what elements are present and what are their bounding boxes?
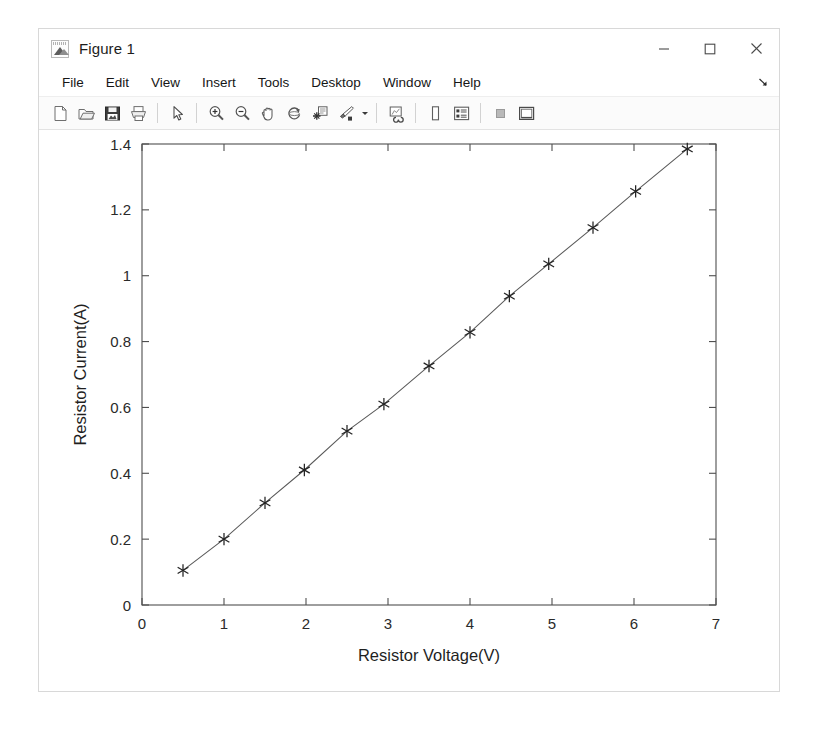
x-axis-title: Resistor Voltage(V)	[358, 646, 500, 664]
series-line	[183, 149, 687, 570]
y-tick-label: 1.4	[110, 136, 131, 153]
rotate-3d-icon[interactable]	[281, 100, 307, 126]
separator-3	[376, 103, 377, 123]
window-titlebar: Figure 1	[39, 29, 779, 68]
window-controls	[641, 29, 779, 68]
link-plot-icon[interactable]	[383, 100, 409, 126]
open-file-icon[interactable]	[73, 100, 99, 126]
separator-1	[157, 103, 158, 123]
data-point-marker	[379, 398, 390, 410]
data-point-marker	[219, 533, 230, 545]
separator-5	[480, 103, 481, 123]
x-tick-label: 5	[548, 615, 556, 632]
menubar: File Edit View Insert Tools Desktop Wind…	[39, 68, 779, 96]
x-tick-label: 6	[630, 615, 638, 632]
matlab-figure-icon	[51, 40, 69, 58]
x-tick-label: 4	[466, 615, 474, 632]
x-tick-label: 2	[302, 615, 310, 632]
data-series	[178, 143, 693, 577]
separator-2	[196, 103, 197, 123]
y-axis-title: Resistor Current(A)	[71, 303, 89, 445]
brush-select-icon[interactable]	[333, 100, 359, 126]
save-figure-icon[interactable]	[99, 100, 125, 126]
plot-browser-icon[interactable]	[487, 100, 513, 126]
menu-item-window[interactable]: Window	[372, 73, 442, 92]
zoom-out-icon[interactable]	[229, 100, 255, 126]
close-button[interactable]	[733, 29, 779, 68]
menu-item-insert[interactable]: Insert	[191, 73, 247, 92]
y-tick-label: 0.4	[110, 465, 131, 482]
y-tick-label: 0.6	[110, 399, 131, 416]
data-point-marker	[504, 290, 515, 302]
print-figure-icon[interactable]	[125, 100, 151, 126]
insert-colorbar-icon[interactable]	[422, 100, 448, 126]
screenshot-root: Figure 1 File Edit View Insert Tools Des…	[0, 0, 832, 746]
menu-item-view[interactable]: View	[140, 73, 191, 92]
new-figure-icon[interactable]	[47, 100, 73, 126]
pan-hand-icon[interactable]	[255, 100, 281, 126]
data-point-marker	[178, 564, 189, 576]
data-point-marker	[260, 497, 271, 509]
y-tick-labels: 00.20.40.60.811.21.4	[110, 136, 131, 614]
separator-4	[415, 103, 416, 123]
data-point-marker	[299, 464, 310, 476]
edit-pointer-icon[interactable]	[164, 100, 190, 126]
y-tick-label: 1.2	[110, 201, 131, 218]
data-point-marker	[342, 425, 353, 437]
minimize-button[interactable]	[641, 29, 687, 68]
maximize-button[interactable]	[687, 29, 733, 68]
x-tick-labels: 01234567	[138, 615, 720, 632]
menu-item-edit[interactable]: Edit	[95, 73, 140, 92]
x-tick-label: 7	[712, 615, 720, 632]
resistor-iv-plot: 01234567 00.20.40.60.811.21.4 Resistor V…	[39, 130, 779, 690]
y-tick-label: 0	[123, 597, 131, 614]
figure-toolbar	[39, 96, 779, 130]
figure-palette-icon[interactable]	[513, 100, 539, 126]
x-tick-label: 1	[220, 615, 228, 632]
y-tick-label: 1	[123, 267, 131, 284]
x-tick-label: 0	[138, 615, 146, 632]
figure-canvas: 01234567 00.20.40.60.811.21.4 Resistor V…	[39, 130, 779, 691]
menu-item-desktop[interactable]: Desktop	[300, 73, 372, 92]
x-tick-label: 3	[384, 615, 392, 632]
data-cursor-icon[interactable]	[307, 100, 333, 126]
matlab-figure-window: Figure 1 File Edit View Insert Tools Des…	[38, 28, 780, 692]
data-point-marker	[630, 185, 641, 197]
y-tick-label: 0.8	[110, 333, 131, 350]
menu-item-help[interactable]: Help	[442, 73, 492, 92]
data-point-marker	[465, 326, 476, 338]
menu-item-tools[interactable]: Tools	[247, 73, 301, 92]
insert-legend-icon[interactable]	[448, 100, 474, 126]
window-title: Figure 1	[79, 40, 135, 57]
data-point-marker	[588, 221, 599, 233]
data-point-marker	[682, 143, 693, 155]
y-tick-label: 0.2	[110, 531, 131, 548]
data-point-marker	[543, 258, 554, 270]
zoom-in-icon[interactable]	[203, 100, 229, 126]
menu-overflow-arrow-icon[interactable]	[758, 73, 769, 91]
data-point-marker	[424, 360, 435, 372]
menu-item-file[interactable]: File	[51, 73, 95, 92]
brush-dropdown-caret-icon[interactable]	[359, 109, 370, 117]
